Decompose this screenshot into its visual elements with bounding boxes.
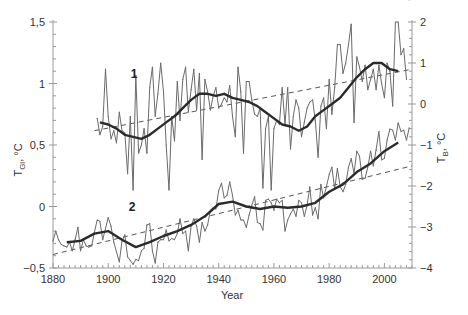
series-1-point	[254, 114, 255, 115]
series-1-point	[400, 54, 401, 55]
series-1-point	[365, 64, 366, 65]
series-2-point	[218, 190, 219, 191]
series-1-point	[110, 138, 111, 139]
series-2-point	[207, 224, 208, 225]
series-2-point	[185, 231, 186, 232]
series-1-point	[202, 159, 203, 160]
series-1-point	[345, 62, 346, 63]
series-2-point	[152, 250, 153, 251]
y-left-tick-label: −0,5	[23, 262, 45, 274]
series-1-trend-line	[94, 69, 412, 131]
x-axis-title: Year	[221, 289, 244, 301]
y-left-title-unit: , °C	[12, 143, 24, 162]
series-1-point	[329, 79, 330, 80]
series-2-point	[66, 247, 67, 248]
y-right-tick-label: 1	[420, 57, 426, 69]
series-2-point	[389, 128, 390, 129]
series-1-point	[179, 120, 180, 121]
series-2-point	[55, 231, 56, 232]
series-2-point	[279, 202, 280, 203]
series-1-point	[146, 153, 147, 154]
series-2-point	[290, 213, 291, 214]
series-1-point	[406, 79, 407, 80]
series-1-point	[191, 89, 192, 90]
series-2-point	[61, 244, 62, 245]
series-1-point	[204, 79, 205, 80]
series-2-point	[166, 229, 167, 230]
series-1-point	[359, 67, 360, 68]
y-right-tick-label: −3	[420, 221, 433, 233]
series-2-point	[365, 178, 366, 179]
series-2-point	[179, 218, 180, 219]
series-1-point	[293, 116, 294, 117]
series-2-point	[284, 231, 285, 232]
series-2-point	[356, 151, 357, 152]
series-1-point	[257, 116, 258, 117]
series-2-point	[226, 195, 227, 196]
series-1-point	[290, 149, 291, 150]
series-1-point	[221, 103, 222, 104]
series-1-point	[149, 87, 150, 88]
series-1-point	[301, 136, 302, 137]
series-2-point	[268, 199, 269, 200]
series-2-point	[373, 165, 374, 166]
series-1-point	[342, 73, 343, 74]
series-1-point	[387, 62, 388, 63]
y-right-tick-label: −1	[420, 139, 433, 151]
series-1-point	[331, 114, 332, 115]
series-1-point	[210, 110, 211, 111]
series-1-point	[384, 97, 385, 98]
series-1-point	[226, 101, 227, 102]
series-2-point	[246, 227, 247, 228]
series-1-point	[240, 91, 241, 92]
series-1-point	[97, 118, 98, 119]
series-2-point	[398, 122, 399, 123]
series-1-point	[193, 69, 194, 70]
series-2-point	[204, 231, 205, 232]
series-1-point	[182, 79, 183, 80]
series-1-point	[323, 97, 324, 98]
series-1-point	[348, 44, 349, 45]
series-2-point	[174, 239, 175, 240]
series-1-point	[99, 134, 100, 135]
series-2-point	[384, 158, 385, 159]
series-1-point	[315, 120, 316, 121]
series-2-point	[235, 215, 236, 216]
series-1-point	[370, 79, 371, 80]
series-2-point	[287, 219, 288, 220]
series-2-point	[108, 217, 109, 218]
series-2-point	[149, 223, 150, 224]
series-2-point	[243, 219, 244, 220]
series-2-point	[116, 251, 117, 252]
series-1-point	[353, 122, 354, 123]
series-2-point	[113, 242, 114, 243]
series-1-point	[273, 128, 274, 129]
series-2-line	[53, 123, 409, 264]
series-2-point	[188, 250, 189, 251]
series-2-point	[271, 202, 272, 203]
series-2-point	[91, 245, 92, 246]
series-1-point	[141, 144, 142, 145]
series-2-point	[378, 131, 379, 132]
series-2-point	[257, 222, 258, 223]
series-2-point	[119, 261, 120, 262]
series-1-point	[318, 157, 319, 158]
series-1-point	[188, 112, 189, 113]
series-2-point	[315, 207, 316, 208]
series-1-point	[127, 173, 128, 174]
series-2-point	[155, 263, 156, 264]
y-right-tick-label: 0	[420, 98, 426, 110]
series-1-point	[249, 81, 250, 82]
series-2-point	[77, 227, 78, 228]
series-2-point	[337, 168, 338, 169]
svg-text:TB, °C: TB, °C	[435, 133, 450, 164]
series-2-point	[265, 200, 266, 201]
series-1-point	[271, 190, 272, 191]
series-2-point	[202, 222, 203, 223]
series-2-point	[160, 239, 161, 240]
series-1-point	[298, 108, 299, 109]
x-tick-label: 1900	[96, 273, 120, 285]
series-1-point	[243, 153, 244, 154]
series-2-point	[105, 228, 106, 229]
series-1-point	[378, 64, 379, 65]
